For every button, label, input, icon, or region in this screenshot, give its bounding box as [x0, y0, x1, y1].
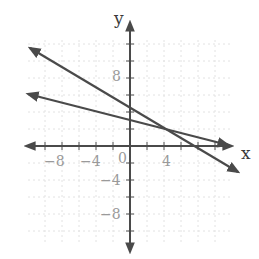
y-axis-label: y — [113, 8, 124, 28]
coordinate-plane: y x 8 0 −8 −4 4 −4 −8 — [0, 0, 259, 259]
x-tick-label-neg8: −8 — [44, 153, 65, 169]
y-tick-label-neg8: −8 — [100, 206, 121, 222]
x-tick-label-neg4: −4 — [80, 153, 101, 169]
x-tick-label-4: 4 — [162, 153, 171, 169]
y-tick-label-8: 8 — [112, 68, 121, 84]
x-axis-label: x — [241, 143, 251, 163]
origin-label: 0 — [118, 150, 127, 166]
y-tick-label-neg4: −4 — [100, 172, 121, 188]
